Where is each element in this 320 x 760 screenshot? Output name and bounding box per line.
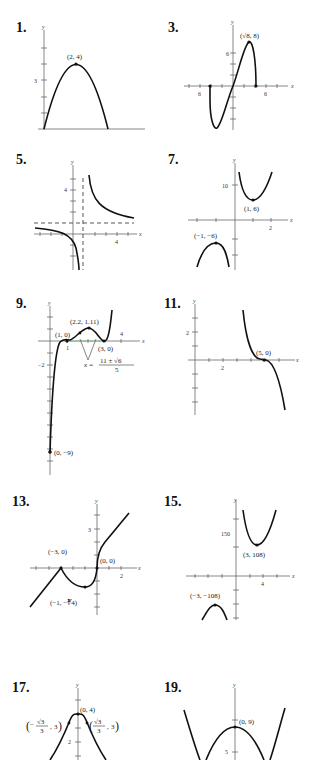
svg-text:4: 4 [120, 331, 123, 337]
graph-5-plot: y x 4 4 [0, 130, 160, 270]
svg-text:(0, 4): (0, 4) [80, 706, 96, 714]
graph-3: 3. y x 6 6 6 (√8, 8) [160, 0, 320, 130]
graph-19: 19. y 5 (0, 9) [160, 620, 320, 760]
svg-text:1: 1 [66, 345, 69, 351]
svg-text:y: y [232, 157, 236, 163]
graph-15: 15. y x 150 4 (3, 108) (−3, −108) [160, 490, 320, 620]
graph-7: 7. y x 10 2 (1, 6) (−1, −6) [160, 130, 320, 270]
svg-text:3: 3 [40, 727, 44, 735]
svg-text:3: 3 [88, 527, 91, 533]
svg-text:x: x [290, 83, 294, 89]
graph-13: 13. y x 3 2 (−3, 0) (0, 0) (−1, −∛4) [0, 490, 160, 620]
graph-17-plot: y 2 (0, 4) ( − √3 3 , 3 ) ( √3 3 , 3 ) [0, 620, 160, 760]
svg-text:4: 4 [261, 581, 264, 587]
svg-text:y: y [230, 19, 234, 25]
svg-text:4: 4 [115, 239, 118, 245]
svg-text:6: 6 [198, 91, 201, 97]
svg-text:(√8, 8): (√8, 8) [240, 32, 260, 40]
svg-text:x =: x = [83, 361, 94, 369]
svg-text:,: , [107, 723, 109, 731]
svg-text:y: y [192, 298, 196, 304]
svg-text:√3: √3 [37, 718, 45, 726]
graph-13-plot: y x 3 2 (−3, 0) (0, 0) (−1, −∛4) [0, 490, 160, 620]
svg-text:x: x [141, 338, 145, 344]
svg-text:4: 4 [64, 187, 67, 193]
svg-text:2: 2 [186, 330, 189, 336]
graph-9: 9. y x 1 4 −2 (2.2, 1.11) (1, 0) (3, 0) … [0, 270, 160, 490]
svg-text:−: − [30, 721, 34, 729]
svg-text:(−3, 0): (−3, 0) [48, 548, 68, 556]
graph-7-plot: y x 10 2 (1, 6) (−1, −6) [160, 130, 320, 270]
graph-19-plot: y 5 (0, 9) [160, 620, 320, 760]
svg-text:(0, −9): (0, −9) [54, 449, 74, 457]
graph-3-plot: y x 6 6 6 (√8, 8) [160, 0, 320, 130]
svg-text:y: y [233, 497, 237, 503]
graph-15-plot: y x 150 4 (3, 108) (−3, −108) [160, 490, 320, 620]
svg-text:): ) [115, 719, 119, 733]
graph-9-plot: y x 1 4 −2 (2.2, 1.11) (1, 0) (3, 0) (0,… [0, 270, 160, 490]
svg-text:3: 3 [34, 78, 37, 84]
svg-text:6: 6 [226, 51, 229, 57]
svg-text:x: x [137, 565, 141, 571]
svg-text:y: y [75, 682, 79, 688]
svg-text:(1, 0): (1, 0) [55, 331, 71, 339]
svg-text:2: 2 [120, 573, 123, 579]
svg-text:√3: √3 [94, 718, 102, 726]
svg-text:(3, 108): (3, 108) [243, 551, 266, 559]
svg-text:y: y [41, 24, 45, 30]
graph-1: 1. 3 y (2, 4) [0, 0, 160, 130]
svg-text:150: 150 [221, 531, 230, 537]
svg-text:y: y [232, 682, 236, 688]
svg-text:−2: −2 [38, 362, 44, 368]
graph-11: 11. y x 2 2 (5, 0) [160, 270, 320, 490]
svg-text:5: 5 [115, 366, 119, 374]
svg-text:(0, 0): (0, 0) [100, 557, 116, 565]
svg-text:y: y [70, 159, 74, 165]
svg-text:5: 5 [225, 749, 228, 755]
svg-text:y: y [47, 300, 51, 306]
svg-text:3: 3 [97, 727, 101, 735]
svg-text:y: y [94, 498, 98, 504]
svg-text:(−1, −6): (−1, −6) [194, 232, 218, 240]
graph-1-plot: 3 y (2, 4) [0, 0, 160, 130]
svg-text:2: 2 [269, 225, 272, 231]
svg-text:x: x [138, 231, 142, 237]
svg-text:(−1, −∛4): (−1, −∛4) [50, 599, 78, 607]
svg-text:x: x [295, 357, 299, 363]
svg-text:(1, 6): (1, 6) [244, 205, 260, 213]
graph-17: 17. y 2 (0, 4) ( − √3 3 , 3 ) ( √3 3 , 3… [0, 620, 160, 760]
svg-text:(5, 0): (5, 0) [256, 349, 272, 357]
graph-5: 5. y x 4 4 [0, 130, 160, 270]
graph-11-plot: y x 2 2 (5, 0) [160, 270, 320, 490]
svg-text:(2.2, 1.11): (2.2, 1.11) [70, 318, 100, 326]
svg-text:(−3, −108): (−3, −108) [190, 592, 221, 600]
svg-text:,: , [50, 723, 52, 731]
svg-text:6: 6 [264, 91, 267, 97]
svg-text:x: x [291, 573, 295, 579]
svg-text:(0, 9): (0, 9) [239, 718, 255, 726]
svg-text:11 ± √6: 11 ± √6 [100, 357, 122, 365]
svg-text:2: 2 [221, 365, 224, 371]
svg-text:10: 10 [222, 183, 228, 189]
svg-text:(: ( [89, 719, 93, 733]
svg-text:x: x [289, 217, 293, 223]
svg-text:2: 2 [68, 739, 71, 745]
svg-text:): ) [58, 719, 62, 733]
svg-text:(2, 4): (2, 4) [67, 53, 83, 61]
svg-text:(3, 0): (3, 0) [98, 345, 114, 353]
